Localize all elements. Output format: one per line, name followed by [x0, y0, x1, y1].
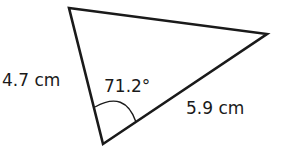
angle-arc [95, 101, 136, 122]
triangle [69, 8, 267, 144]
triangle-diagram: 4.7 cm 71.2° 5.9 cm [0, 0, 284, 158]
side-label-left: 4.7 cm [2, 70, 60, 90]
angle-label: 71.2° [104, 76, 150, 96]
side-label-bottom-right: 5.9 cm [186, 98, 244, 118]
